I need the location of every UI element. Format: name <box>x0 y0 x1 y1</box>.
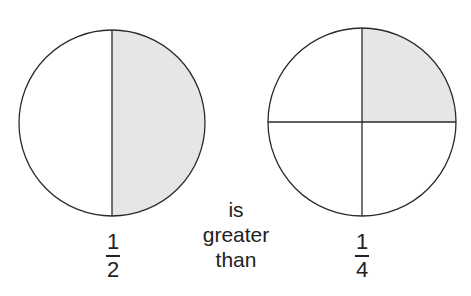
shaded-half <box>112 30 205 216</box>
shaded-quarter <box>362 28 456 122</box>
quarter-circle-figure <box>268 28 456 216</box>
denominator: 4 <box>350 259 374 281</box>
fraction-one-half: 1 2 <box>101 231 125 281</box>
comparison-text: is greater than <box>196 197 276 272</box>
numerator: 1 <box>350 231 374 253</box>
half-circle-figure <box>19 30 205 216</box>
denominator: 2 <box>101 259 125 281</box>
comparison-word-greater: greater <box>196 222 276 247</box>
comparison-word-is: is <box>196 197 276 222</box>
fraction-diagram: 1 2 is greater than 1 4 <box>0 0 471 296</box>
fraction-one-quarter: 1 4 <box>350 231 374 281</box>
comparison-word-than: than <box>196 247 276 272</box>
numerator: 1 <box>101 231 125 253</box>
